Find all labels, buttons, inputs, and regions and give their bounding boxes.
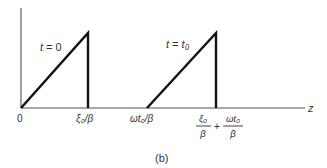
pulse-t-t0-start-label: ωt₀/β <box>130 113 154 124</box>
fraction-2-denominator: β <box>229 128 236 139</box>
fraction-2-numerator: ωt₀ <box>226 113 240 124</box>
fraction-1-numerator: ξ₀ <box>199 113 207 124</box>
pulse-t0-time-label: t = 0 <box>40 41 62 53</box>
sawtooth-pulse-diagram: z t = 0 t = t₀ 0 ξ₀/β ωt₀/β ξ₀ β + ωt₀ β… <box>0 0 327 168</box>
origin-label: 0 <box>17 113 23 124</box>
figure-caption: (b) <box>155 152 168 164</box>
plus-sign: + <box>214 121 220 132</box>
z-axis-label: z <box>307 102 314 114</box>
fraction-1-denominator: β <box>199 128 206 139</box>
pulse-t-t0-time-label: t = t₀ <box>166 38 190 50</box>
pulse-t-t0-end-label: ξ₀ β + ωt₀ β <box>196 113 243 139</box>
pulse-t0-end-label: ξ₀/β <box>76 113 93 125</box>
